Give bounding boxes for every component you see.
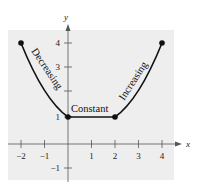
y-tick-label: 3 [56,62,61,72]
function-graph: −2 −1 1 2 3 4 x 4 3 1 −1 y Decreasing Co… [0,0,198,186]
x-tick-label: 4 [160,151,165,161]
y-axis-arrow-icon [66,24,71,31]
endpoint-marker [112,114,118,120]
x-tick-label: 1 [89,151,94,161]
endpoint-marker [65,114,71,120]
endpoint-marker [18,40,24,46]
x-tick-label: −1 [40,151,50,161]
y-tick-label: −1 [50,163,60,173]
y-axis-label: y [63,12,68,22]
y-tick-label: 1 [56,112,61,122]
x-axis-label: x [185,139,190,149]
x-tick-label: −2 [16,151,26,161]
x-axis-arrow-icon [175,142,182,147]
endpoint-marker [159,40,165,46]
x-tick-label: 2 [113,151,118,161]
y-tick-label: 4 [56,38,61,48]
x-tick-label: 3 [136,151,141,161]
constant-label: Constant [71,103,108,114]
